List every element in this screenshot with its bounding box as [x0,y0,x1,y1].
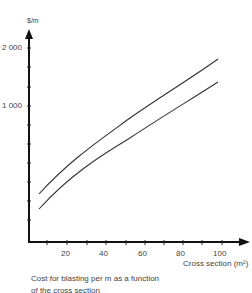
x-axis-arrow-icon [239,238,250,246]
x-axis-label: Cross section (m²) [183,259,248,268]
caption-line-1: Cost for blasting per m as a function [31,274,159,283]
x-tick-label-60: 60 [138,249,147,258]
series-lower-line [39,82,218,209]
caption-line-2: of the cross section [31,287,100,293]
y-tick-label-2000: 2 000 [2,43,22,52]
series-upper-line [39,59,218,194]
x-tick-label-40: 40 [99,249,108,258]
y-tick-label-1000: 1 000 [2,101,22,110]
y-axis-label: $/m [27,17,39,24]
x-tick-label-100: 100 [213,249,226,258]
y-axis-arrow-icon [25,29,33,39]
x-tick-label-80: 80 [176,249,185,258]
x-tick-label-20: 20 [61,249,70,258]
